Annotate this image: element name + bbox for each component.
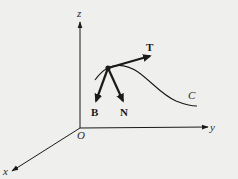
normal-label: N [120,106,128,118]
coordinate-axes [12,22,208,171]
normal-vector [108,68,123,101]
binormal-label: B [91,106,99,118]
x-axis [12,128,80,171]
origin-label: O [77,129,85,141]
diagram-canvas: z y x O C T B N [0,0,238,179]
z-axis-label: z [76,7,82,19]
tangent-vector [108,56,150,68]
frenet-vectors [96,56,150,101]
binormal-vector [96,68,108,101]
tangent-label: T [146,41,154,53]
x-axis-label: x [2,165,8,177]
y-axis [80,127,208,128]
y-axis-label: y [209,121,215,133]
point-on-curve [105,65,110,70]
curve-label: C [188,89,196,101]
frenet-frame-diagram: z y x O C T B N [0,0,238,179]
